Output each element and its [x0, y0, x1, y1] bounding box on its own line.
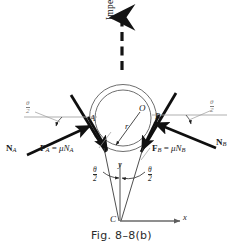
free-body-diagram — [0, 0, 243, 249]
friction-left-equals: = — [52, 143, 57, 153]
normal-force-left-label: NA — [6, 144, 16, 154]
friction-right-equals: = — [164, 143, 169, 153]
angle-label-bottom-left: θ 2 — [93, 166, 97, 182]
friction-force-left-label: FA = μNA — [40, 144, 74, 154]
point-label-B: B — [155, 112, 160, 121]
axis-label-x: x — [183, 213, 187, 222]
angle-label-bottom-right: θ 2 — [148, 166, 152, 182]
vee-line-left — [104, 148, 119, 221]
friction-force-right-label: FB = μNB — [152, 144, 186, 154]
friction-right-mu-n: μN — [171, 143, 182, 153]
friction-left-subscript: A — [46, 146, 50, 153]
point-label-O: O — [139, 104, 146, 113]
friction-right-mu-subscript: B — [182, 146, 186, 153]
friction-left-mu-subscript: A — [70, 146, 74, 153]
radius-label-r: r — [125, 122, 128, 131]
angle-bottom-left-two: 2 — [93, 174, 97, 183]
figure-caption: Fig. 8–8(b) — [0, 230, 243, 241]
angle-top-right-theta: θ — [210, 99, 214, 106]
angle-arc-top-right — [186, 110, 212, 124]
angle-bottom-right-theta: θ — [148, 166, 152, 174]
point-label-A: A — [90, 114, 95, 123]
normal-force-right-label: NB — [216, 138, 226, 148]
angle-bottom-left-theta: θ — [93, 166, 97, 174]
angle-arc-bottom-left — [103, 172, 119, 178]
angle-top-right-two: 2 — [210, 106, 214, 114]
angle-label-top-left: θ 2 — [26, 100, 30, 115]
angle-arc-top-left — [35, 112, 62, 126]
friction-right-subscript: B — [158, 146, 162, 153]
figure-page: Impending motion O r A B C x y NA NB FA … — [0, 0, 243, 249]
angle-arc-bottom-right — [122, 172, 145, 179]
angle-top-left-two: 2 — [26, 107, 30, 115]
normal-right-subscript: B — [223, 140, 227, 147]
cylinder-inner-circle — [95, 90, 151, 146]
vee-line-right — [121, 148, 143, 221]
impending-motion-text: Impending motion — [106, 0, 116, 20]
angle-bottom-right-two: 2 — [148, 174, 152, 183]
angle-top-left-theta: θ — [26, 100, 30, 107]
normal-left-subscript: A — [13, 146, 17, 153]
friction-left-mu-n: μN — [59, 143, 70, 153]
angle-label-top-right: θ 2 — [210, 99, 214, 114]
point-label-C: C — [110, 215, 116, 224]
groove-wall-left — [71, 95, 106, 152]
axis-label-y: y — [118, 160, 122, 169]
